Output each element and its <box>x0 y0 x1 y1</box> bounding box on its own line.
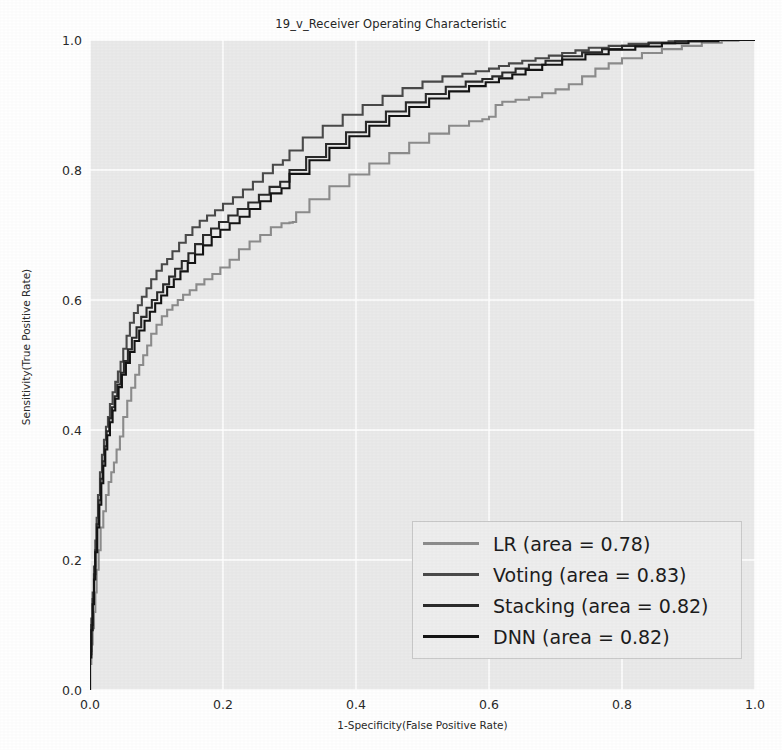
y-tick-label: 0.8 <box>34 163 82 178</box>
legend-line-swatch <box>423 604 479 607</box>
roc-figure: 19_v_Receiver Operating Characteristic 0… <box>0 0 782 750</box>
x-tick-label: 0.4 <box>326 697 386 712</box>
legend-item-dnn[interactable]: DNN (area = 0.82) <box>423 621 731 652</box>
legend-label: LR (area = 0.78) <box>493 533 650 555</box>
y-tick-label: 0.2 <box>34 553 82 568</box>
legend-item-stacking[interactable]: Stacking (area = 0.82) <box>423 590 731 621</box>
page-title: 19_v_Receiver Operating Characteristic <box>0 17 782 31</box>
x-tick-label: 0.8 <box>592 697 652 712</box>
y-tick-label: 1.0 <box>34 33 82 48</box>
y-axis-ticks: 0.00.20.40.60.81.0 <box>0 0 82 750</box>
legend-line-swatch <box>423 542 479 545</box>
legend-label: Stacking (area = 0.82) <box>493 595 709 617</box>
legend-label: Voting (area = 0.83) <box>493 564 687 586</box>
legend-label: DNN (area = 0.82) <box>493 626 670 648</box>
x-tick-label: 0.0 <box>60 697 120 712</box>
y-tick-label: 0.4 <box>34 423 82 438</box>
y-tick-label: 0.6 <box>34 293 82 308</box>
legend-item-lr[interactable]: LR (area = 0.78) <box>423 528 731 559</box>
legend-line-swatch <box>423 635 479 638</box>
x-tick-label: 1.0 <box>725 697 782 712</box>
x-tick-label: 0.6 <box>459 697 519 712</box>
x-axis-label: 1-Specificity(False Positive Rate) <box>90 719 755 731</box>
x-tick-label: 0.2 <box>193 697 253 712</box>
legend-item-voting[interactable]: Voting (area = 0.83) <box>423 559 731 590</box>
legend-line-swatch <box>423 573 479 576</box>
y-tick-label: 0.0 <box>34 683 82 698</box>
legend[interactable]: LR (area = 0.78)Voting (area = 0.83)Stac… <box>412 521 742 659</box>
y-axis-label: Sensitivity(True Positive Rate) <box>20 217 32 477</box>
